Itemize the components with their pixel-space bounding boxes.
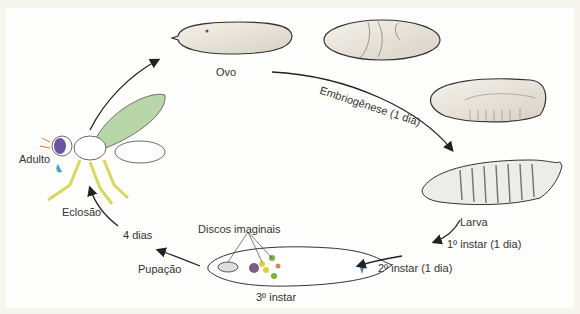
label-larva: Larva [460, 216, 488, 228]
arrow-embryogenesis [272, 72, 452, 150]
label-pupation: Pupação [138, 263, 181, 275]
third-instar-larva-illustration [208, 232, 392, 286]
embryo-illustration-2 [431, 79, 546, 122]
label-second-instar: 2º instar (1 dia) [378, 262, 452, 274]
label-four-days: 4 dias [123, 229, 152, 241]
label-first-instar: 1º instar (1 dia) [447, 238, 521, 250]
label-third-instar: 3º instar [256, 291, 296, 303]
label-imaginal-discs: Discos imaginais [198, 223, 281, 235]
life-cycle-diagram [0, 0, 580, 314]
label-egg: Ovo [216, 66, 236, 78]
label-eclosion: Eclosão [62, 206, 101, 218]
label-adult: Adulto [19, 153, 50, 165]
adult-fly-illustration [40, 94, 165, 204]
embryo-illustration-1 [324, 20, 440, 60]
larva-illustration [422, 160, 562, 205]
egg-illustration [172, 22, 292, 54]
